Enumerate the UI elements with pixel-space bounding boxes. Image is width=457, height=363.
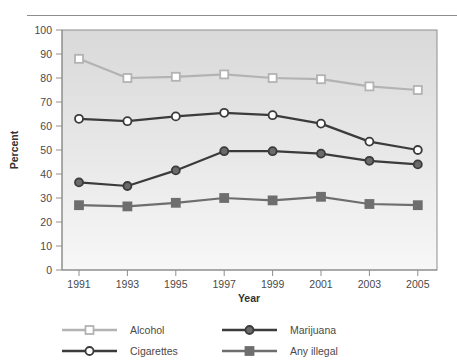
data-point-marker bbox=[220, 70, 228, 78]
y-tick-label: 0 bbox=[46, 264, 52, 276]
data-point-marker bbox=[75, 55, 83, 63]
legend-item-any-illegal[interactable]: Any illegal bbox=[222, 345, 338, 357]
data-point-marker bbox=[75, 115, 83, 123]
data-point-marker bbox=[246, 347, 254, 355]
data-point-marker bbox=[317, 150, 325, 158]
line-chart: 0102030405060708090100 19911993199519971… bbox=[0, 0, 457, 363]
data-point-marker bbox=[269, 147, 277, 155]
data-point-marker bbox=[172, 112, 180, 120]
y-tick-label: 60 bbox=[40, 120, 52, 132]
x-tick-label: 1997 bbox=[213, 278, 237, 290]
legend-item-marijuana[interactable]: Marijuana bbox=[222, 324, 336, 336]
data-point-marker bbox=[246, 326, 254, 334]
data-point-marker bbox=[269, 74, 277, 82]
x-tick-label: 2003 bbox=[358, 278, 382, 290]
y-tick-label: 50 bbox=[40, 144, 52, 156]
data-point-marker bbox=[75, 178, 83, 186]
data-point-marker bbox=[365, 200, 373, 208]
data-point-marker bbox=[365, 82, 373, 90]
legend-item-label: Marijuana bbox=[290, 324, 336, 336]
y-tick-label: 70 bbox=[40, 96, 52, 108]
data-point-marker bbox=[123, 74, 131, 82]
y-tick-label: 40 bbox=[40, 168, 52, 180]
y-axis-title: Percent bbox=[8, 130, 20, 169]
y-tick-label: 20 bbox=[40, 216, 52, 228]
legend-item-label: Cigarettes bbox=[130, 345, 178, 357]
data-point-marker bbox=[365, 157, 373, 165]
x-tick-label: 1999 bbox=[261, 278, 285, 290]
data-point-marker bbox=[172, 199, 180, 207]
data-point-marker bbox=[220, 109, 228, 117]
data-point-marker bbox=[123, 202, 131, 210]
x-tick-label: 2001 bbox=[309, 278, 333, 290]
x-tick-label: 1995 bbox=[164, 278, 188, 290]
data-point-marker bbox=[414, 146, 422, 154]
legend-item-label: Any illegal bbox=[290, 345, 338, 357]
data-point-marker bbox=[269, 111, 277, 119]
data-point-marker bbox=[317, 120, 325, 128]
data-point-marker bbox=[86, 326, 94, 334]
legend-item-alcohol[interactable]: Alcohol bbox=[62, 324, 164, 336]
x-tick-label: 1993 bbox=[116, 278, 140, 290]
data-point-marker bbox=[172, 166, 180, 174]
data-point-marker bbox=[220, 147, 228, 155]
data-point-marker bbox=[414, 160, 422, 168]
y-tick-label: 100 bbox=[34, 24, 52, 36]
data-point-marker bbox=[220, 194, 228, 202]
data-point-marker bbox=[365, 138, 373, 146]
data-point-marker bbox=[75, 201, 83, 209]
x-tick-label: 2005 bbox=[406, 278, 430, 290]
data-point-marker bbox=[172, 73, 180, 81]
y-tick-label: 10 bbox=[40, 240, 52, 252]
y-tick-label: 30 bbox=[40, 192, 52, 204]
chart-figure: 0102030405060708090100 19911993199519971… bbox=[0, 0, 457, 363]
data-point-marker bbox=[317, 193, 325, 201]
chart-legend: AlcoholMarijuanaCigarettesAny illegal bbox=[62, 324, 338, 357]
legend-item-cigarettes[interactable]: Cigarettes bbox=[62, 345, 178, 357]
plot-area-background bbox=[62, 30, 437, 270]
legend-item-label: Alcohol bbox=[130, 324, 164, 336]
data-point-marker bbox=[414, 201, 422, 209]
data-point-marker bbox=[86, 347, 94, 355]
y-tick-label: 80 bbox=[40, 72, 52, 84]
x-tick-label: 1991 bbox=[67, 278, 91, 290]
y-axis-ticks: 0102030405060708090100 bbox=[34, 24, 62, 276]
data-point-marker bbox=[317, 75, 325, 83]
x-axis-ticks: 19911993199519971999200120032005 bbox=[67, 270, 429, 290]
y-tick-label: 90 bbox=[40, 48, 52, 60]
data-point-marker bbox=[123, 182, 131, 190]
x-axis-title: Year bbox=[238, 292, 260, 304]
data-point-marker bbox=[414, 86, 422, 94]
data-point-marker bbox=[269, 196, 277, 204]
data-point-marker bbox=[123, 117, 131, 125]
